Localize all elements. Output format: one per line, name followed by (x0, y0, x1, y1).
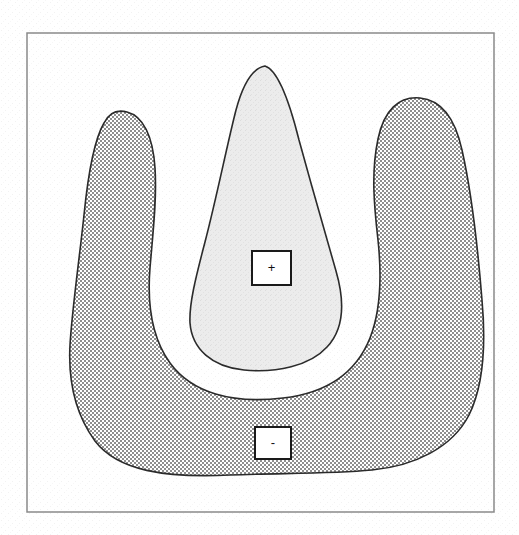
contour-figure-svg: + - (0, 0, 519, 535)
figure-container: + - Contour field diagram with positive … (0, 0, 519, 535)
negative-marker[interactable]: - (255, 427, 291, 459)
negative-marker-label: - (271, 435, 275, 450)
positive-marker-label: + (268, 260, 276, 275)
positive-marker[interactable]: + (252, 251, 291, 285)
